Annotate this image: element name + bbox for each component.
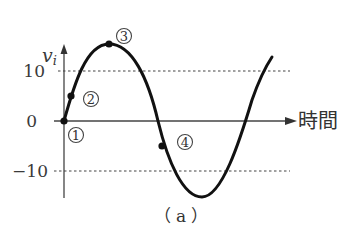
- point-3-label: 3: [117, 29, 132, 44]
- svg-text:1: 1: [72, 128, 80, 143]
- svg-text:2: 2: [87, 92, 95, 107]
- point-1-marker: [60, 117, 67, 124]
- svg-text:4: 4: [181, 135, 189, 150]
- sine-wave-diagram: 1 2 3 4 10 0 −10 vi 時間 （ a ）: [0, 0, 350, 239]
- point-2-label: 2: [84, 92, 99, 107]
- svg-text:3: 3: [120, 29, 128, 44]
- x-axis-arrow-icon: [285, 117, 297, 125]
- tick-label-0: 0: [26, 111, 37, 131]
- tick-label-minus-10: −10: [12, 161, 48, 181]
- x-axis-label: 時間: [298, 109, 338, 133]
- figure-caption: （ a ）: [154, 206, 209, 226]
- point-4-marker: [158, 142, 165, 149]
- point-1-label: 1: [69, 128, 84, 143]
- point-4-label: 4: [178, 135, 193, 150]
- point-3-marker: [105, 40, 112, 47]
- y-axis-label: vi: [42, 44, 57, 68]
- y-axis-arrow-icon: [61, 44, 68, 54]
- point-2-marker: [67, 92, 74, 99]
